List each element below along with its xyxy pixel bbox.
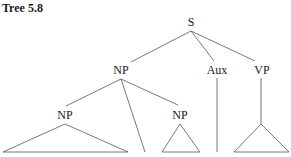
edge-np-np-small — [121, 79, 178, 105]
edge-s-aux — [191, 31, 214, 61]
syntax-tree: S NP Aux VP NP NP — [0, 0, 291, 157]
node-s: S — [188, 15, 195, 29]
edge-np-np-left — [66, 79, 121, 106]
edge-np-terminal — [121, 79, 145, 152]
edge-s-vp — [191, 31, 255, 61]
node-np-top: NP — [113, 63, 129, 77]
node-np-small: NP — [172, 108, 188, 122]
triangle-np-small — [162, 124, 200, 152]
triangle-np-left — [3, 124, 128, 152]
node-np-left: NP — [57, 108, 73, 122]
node-aux: Aux — [207, 63, 228, 77]
edge-s-np — [131, 31, 191, 62]
node-vp: VP — [254, 63, 270, 77]
triangle-vp — [234, 124, 289, 152]
